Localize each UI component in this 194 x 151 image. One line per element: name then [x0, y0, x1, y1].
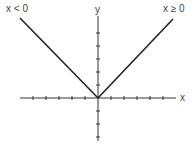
absolute-value-graph: x < 0 x ≥ 0 y x — [0, 0, 194, 151]
left-region-label: x < 0 — [6, 3, 28, 14]
y-axis-label: y — [95, 4, 100, 15]
right-branch-line — [98, 19, 173, 98]
right-region-label: x ≥ 0 — [163, 3, 185, 14]
left-branch-line — [20, 18, 98, 98]
x-axis-label: x — [180, 92, 185, 103]
